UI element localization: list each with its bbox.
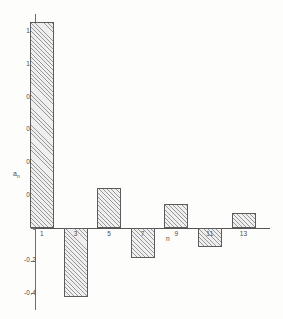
y-tick-8: -0.4: [0, 293, 36, 294]
y-tick-7: -0.2: [0, 261, 36, 262]
x-tick-label: 13: [232, 231, 256, 238]
x-tick-label: 1: [30, 231, 54, 238]
bar: [64, 228, 88, 297]
x-tick-label: 11: [198, 231, 222, 238]
figure-container: 1.21.00.80.60.40.20-0.2-0.4 135791113 n …: [0, 0, 283, 319]
bar: [232, 213, 256, 228]
bar: [30, 22, 54, 228]
x-tick-label: 3: [64, 231, 88, 238]
y-axis-title-subscript: n: [17, 173, 20, 179]
x-axis-title: n: [166, 236, 170, 243]
x-tick-label: 5: [97, 231, 121, 238]
y-tick-mark: [31, 261, 36, 262]
y-tick-6: 0: [0, 228, 36, 229]
y-tick-mark: [31, 293, 36, 294]
plot-area: 1.21.00.80.60.40.20-0.2-0.4 135791113 n …: [0, 0, 283, 319]
y-axis-title: an: [13, 170, 20, 179]
bar: [164, 204, 188, 228]
y-tick-mark: [31, 228, 36, 229]
x-tick-label: 7: [131, 231, 155, 238]
bar: [97, 188, 121, 228]
